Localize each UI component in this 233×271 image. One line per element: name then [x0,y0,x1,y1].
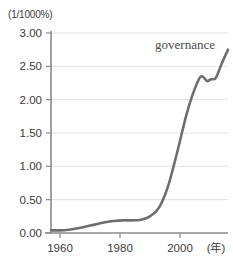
gridlines-group [51,33,228,200]
x-tick-label: 1960 [47,242,73,254]
x-tick-label: 1980 [107,242,133,254]
x-axis-title: (年) [207,241,226,254]
governance-series-line [51,50,228,231]
x-tick-labels-group: 196019802000 [47,242,193,254]
y-tick-label: 2.50 [20,60,42,72]
series-label-governance: governance [155,37,215,52]
y-tick-label: 2.00 [20,94,42,106]
y-tick-label: 0.50 [20,194,42,206]
y-tick-label: 0.00 [20,227,42,239]
x-tick-label: 2000 [167,242,193,254]
y-tick-label: 1.50 [20,127,42,139]
line-chart: 0.000.501.001.502.002.503.00 19601980200… [0,0,233,271]
y-tick-label: 1.00 [20,160,42,172]
y-tick-label: 3.00 [20,27,42,39]
y-tick-labels-group: 0.000.501.001.502.002.503.00 [20,27,42,239]
chart-page: (1/1000%) 0.000.501.001.502.002.503.00 1… [0,0,233,271]
